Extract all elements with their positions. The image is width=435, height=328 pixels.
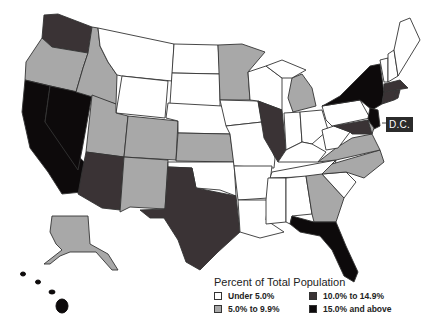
state-ND (172, 44, 220, 74)
swatch-light-gray-icon (214, 305, 222, 313)
state-HI-maui (49, 290, 55, 294)
legend-item-5-to-9-9: 5.0% to 9.9% (214, 304, 309, 314)
state-ME (394, 18, 420, 76)
state-CT (382, 90, 396, 104)
state-FL (290, 216, 358, 282)
swatch-white-icon (214, 292, 222, 300)
legend-title: Percent of Total Population (214, 276, 434, 288)
state-KS (176, 133, 234, 162)
state-WY (116, 76, 168, 118)
state-MI (288, 74, 316, 112)
swatch-dark-gray-icon (309, 292, 317, 300)
state-IA (220, 100, 262, 126)
state-MS (266, 178, 286, 224)
state-CO (124, 116, 178, 160)
state-AZ (78, 152, 124, 210)
state-AK (44, 216, 118, 270)
state-NM (120, 157, 168, 212)
state-SD (170, 73, 220, 108)
legend-item-15-and-above: 15.0% and above (309, 304, 419, 314)
swatch-black-icon (309, 305, 317, 313)
state-HI-big (56, 299, 68, 313)
legend: Percent of Total Population Under 5.0% 1… (214, 276, 434, 314)
state-HI-oahu (36, 280, 41, 284)
dc-label: D.C. (386, 117, 413, 132)
state-HI-kauai (21, 272, 26, 276)
legend-item-under-5: Under 5.0% (214, 291, 309, 301)
legend-item-10-to-14-9: 10.0% to 14.9% (309, 291, 419, 301)
